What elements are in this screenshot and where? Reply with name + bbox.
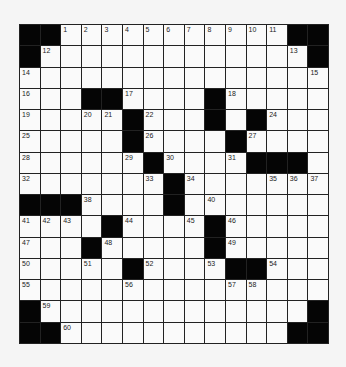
grid-cell[interactable] <box>144 280 164 300</box>
grid-cell[interactable]: 9 <box>226 25 246 45</box>
grid-cell[interactable] <box>144 195 164 215</box>
grid-cell[interactable] <box>102 174 122 194</box>
grid-cell[interactable] <box>185 301 205 321</box>
grid-cell[interactable]: 2 <box>82 25 102 45</box>
grid-cell[interactable] <box>164 46 184 66</box>
grid-cell[interactable] <box>82 301 102 321</box>
grid-cell[interactable] <box>164 238 184 258</box>
grid-cell[interactable] <box>267 238 287 258</box>
grid-cell[interactable] <box>102 46 122 66</box>
grid-cell[interactable] <box>102 323 122 343</box>
grid-cell[interactable]: 56 <box>123 280 143 300</box>
grid-cell[interactable] <box>267 280 287 300</box>
grid-cell[interactable] <box>205 323 225 343</box>
grid-cell[interactable] <box>267 68 287 88</box>
grid-cell[interactable] <box>41 89 61 109</box>
grid-cell[interactable] <box>82 174 102 194</box>
grid-cell[interactable] <box>185 259 205 279</box>
grid-cell[interactable] <box>144 323 164 343</box>
grid-cell[interactable] <box>82 46 102 66</box>
grid-cell[interactable] <box>144 68 164 88</box>
grid-cell[interactable] <box>144 89 164 109</box>
grid-cell[interactable] <box>308 131 328 151</box>
grid-cell[interactable]: 51 <box>82 259 102 279</box>
grid-cell[interactable]: 45 <box>185 216 205 236</box>
grid-cell[interactable] <box>61 301 81 321</box>
grid-cell[interactable]: 19 <box>20 110 40 130</box>
grid-cell[interactable] <box>185 68 205 88</box>
grid-cell[interactable]: 42 <box>41 216 61 236</box>
grid-cell[interactable]: 22 <box>144 110 164 130</box>
grid-cell[interactable] <box>288 301 308 321</box>
grid-cell[interactable] <box>288 131 308 151</box>
grid-cell[interactable]: 25 <box>20 131 40 151</box>
grid-cell[interactable]: 10 <box>247 25 267 45</box>
grid-cell[interactable]: 28 <box>20 153 40 173</box>
grid-cell[interactable] <box>61 131 81 151</box>
grid-cell[interactable] <box>61 110 81 130</box>
grid-cell[interactable] <box>61 46 81 66</box>
grid-cell[interactable] <box>226 174 246 194</box>
grid-cell[interactable] <box>247 195 267 215</box>
grid-cell[interactable] <box>247 89 267 109</box>
grid-cell[interactable] <box>247 216 267 236</box>
grid-cell[interactable] <box>144 216 164 236</box>
grid-cell[interactable] <box>267 89 287 109</box>
grid-cell[interactable]: 46 <box>226 216 246 236</box>
grid-cell[interactable] <box>288 216 308 236</box>
grid-cell[interactable] <box>123 46 143 66</box>
grid-cell[interactable] <box>102 131 122 151</box>
grid-cell[interactable]: 18 <box>226 89 246 109</box>
grid-cell[interactable] <box>247 174 267 194</box>
grid-cell[interactable] <box>247 323 267 343</box>
grid-cell[interactable] <box>102 195 122 215</box>
grid-cell[interactable]: 15 <box>308 68 328 88</box>
grid-cell[interactable] <box>308 238 328 258</box>
grid-cell[interactable]: 32 <box>20 174 40 194</box>
grid-cell[interactable] <box>123 195 143 215</box>
grid-cell[interactable] <box>61 259 81 279</box>
grid-cell[interactable]: 36 <box>288 174 308 194</box>
grid-cell[interactable] <box>247 301 267 321</box>
grid-cell[interactable]: 54 <box>267 259 287 279</box>
grid-cell[interactable]: 44 <box>123 216 143 236</box>
grid-cell[interactable] <box>288 259 308 279</box>
grid-cell[interactable] <box>144 238 164 258</box>
grid-cell[interactable] <box>267 216 287 236</box>
grid-cell[interactable] <box>61 280 81 300</box>
grid-cell[interactable] <box>185 46 205 66</box>
grid-cell[interactable]: 52 <box>144 259 164 279</box>
grid-cell[interactable]: 13 <box>288 46 308 66</box>
grid-cell[interactable] <box>308 89 328 109</box>
grid-cell[interactable] <box>61 68 81 88</box>
grid-cell[interactable] <box>61 174 81 194</box>
grid-cell[interactable]: 5 <box>144 25 164 45</box>
grid-cell[interactable]: 35 <box>267 174 287 194</box>
grid-cell[interactable] <box>247 68 267 88</box>
grid-cell[interactable]: 43 <box>61 216 81 236</box>
grid-cell[interactable] <box>123 174 143 194</box>
grid-cell[interactable] <box>247 46 267 66</box>
grid-cell[interactable] <box>226 46 246 66</box>
grid-cell[interactable] <box>185 195 205 215</box>
grid-cell[interactable] <box>308 280 328 300</box>
grid-cell[interactable] <box>267 195 287 215</box>
grid-cell[interactable]: 37 <box>308 174 328 194</box>
grid-cell[interactable] <box>288 110 308 130</box>
grid-cell[interactable] <box>205 46 225 66</box>
grid-cell[interactable] <box>61 238 81 258</box>
grid-cell[interactable]: 50 <box>20 259 40 279</box>
grid-cell[interactable]: 24 <box>267 110 287 130</box>
grid-cell[interactable]: 26 <box>144 131 164 151</box>
grid-cell[interactable]: 16 <box>20 89 40 109</box>
grid-cell[interactable] <box>185 238 205 258</box>
grid-cell[interactable] <box>226 68 246 88</box>
grid-cell[interactable] <box>226 301 246 321</box>
grid-cell[interactable]: 48 <box>102 238 122 258</box>
grid-cell[interactable] <box>226 195 246 215</box>
grid-cell[interactable] <box>41 174 61 194</box>
grid-cell[interactable] <box>41 280 61 300</box>
grid-cell[interactable] <box>82 153 102 173</box>
grid-cell[interactable]: 21 <box>102 110 122 130</box>
grid-cell[interactable] <box>185 110 205 130</box>
